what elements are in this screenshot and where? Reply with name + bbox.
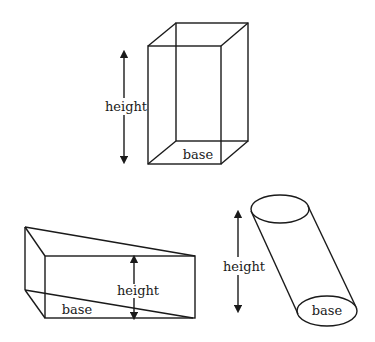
cylinder-height-label: height xyxy=(223,259,266,274)
rectangular-prism: height base xyxy=(105,23,248,164)
cylinder-base-label: base xyxy=(312,303,343,318)
wedge-base-label: base xyxy=(62,302,93,317)
oblique-cylinder: height base xyxy=(223,195,357,326)
triangular-prism: height base xyxy=(25,227,195,318)
wedge-height-label: height xyxy=(117,283,160,298)
prism-height-label: height xyxy=(105,99,148,114)
prism-base-label: base xyxy=(183,147,214,162)
solids-diagram: height base height base height base xyxy=(0,0,375,342)
